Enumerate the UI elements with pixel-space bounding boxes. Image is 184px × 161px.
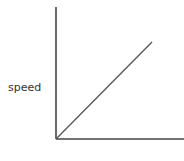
speed-line	[56, 42, 152, 139]
y-axis-label: speed	[8, 81, 41, 94]
chart: speed	[0, 0, 184, 161]
